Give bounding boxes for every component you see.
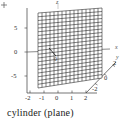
x-axis-name: x xyxy=(115,44,118,50)
depth-tick-label-minus2: -2 xyxy=(92,86,97,93)
figure-caption: cylinder (plane) xyxy=(7,107,74,118)
x-tick-label-0: 0 xyxy=(55,95,58,102)
plane-wireframe-mesh xyxy=(38,8,102,88)
x-tick-label-minus1: -1 xyxy=(39,95,44,102)
vertical-axis-spine xyxy=(25,8,28,93)
depth-tick-label-0: 0 xyxy=(104,75,107,82)
x-tick-label-minus2: -2 xyxy=(25,95,30,102)
vertical-axis-name: z xyxy=(56,0,58,5)
vertical-tick-label-minus5: -5 xyxy=(11,73,16,80)
x-tick-label-1: 1 xyxy=(70,95,73,102)
depth-tick-label-2: 2 xyxy=(113,60,116,67)
vertical-tick-label-0: 0 xyxy=(14,49,17,56)
x-tick-label-2: 2 xyxy=(84,95,87,102)
vertical-tick-label-5: 5 xyxy=(14,25,17,32)
figure-container: 5 0 -5 -2 -1 0 1 2 -2 0 2 0 z x y cylind… xyxy=(0,0,122,124)
depth-axis-name: y xyxy=(116,54,119,60)
origin-label: 0 xyxy=(54,57,57,63)
plot-svg xyxy=(0,0,122,104)
plot-area: 5 0 -5 -2 -1 0 1 2 -2 0 2 0 z x y xyxy=(0,0,122,104)
